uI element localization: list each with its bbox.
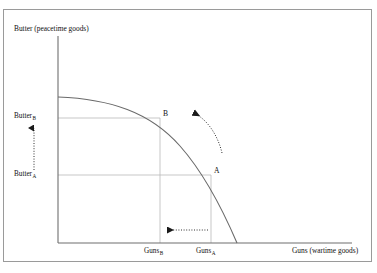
tick-label-guns-b-subscript: B [159,250,163,256]
axes-group [58,36,352,243]
point-label-a: A [214,166,219,175]
point-label-b: B [163,109,168,118]
figure-root: Butter (peacetime goods) Guns (wartime g… [0,0,377,273]
tick-label-butter-b: ButterB [14,112,36,121]
tick-label-guns-b: GunsB [144,247,163,256]
tick-label-guns-b-text: Guns [144,247,159,255]
ppf-curve [58,97,237,243]
movement-along-frontier-arrow [194,113,222,153]
plot-canvas [0,0,377,273]
tick-label-guns-a: GunsA [196,247,216,256]
tick-label-butter-a: ButterA [14,170,36,179]
x-axis-label: Guns (wartime goods) [292,246,358,255]
tick-label-butter-a-text: Butter [14,170,32,178]
tick-label-guns-a-subscript: A [211,250,215,256]
tick-label-butter-a-subscript: A [32,173,36,179]
tick-label-guns-a-text: Guns [196,247,211,255]
tick-label-butter-b-subscript: B [32,115,36,121]
tick-label-butter-b-text: Butter [14,112,32,120]
y-axis-label: Butter (peacetime goods) [14,24,89,33]
guidelines-group [58,118,211,243]
